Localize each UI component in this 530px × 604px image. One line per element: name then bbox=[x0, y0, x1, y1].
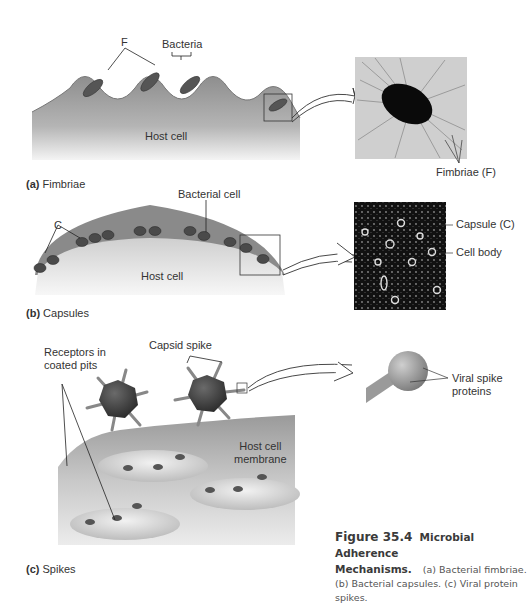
micrograph-fimbriae bbox=[355, 57, 467, 163]
panel-c-caption: (c) Spikes bbox=[26, 563, 76, 575]
label-host-cell-b: Host cell bbox=[141, 270, 183, 283]
label-host-cell-a: Host cell bbox=[145, 130, 187, 143]
caption-line-2: (b) Bacterial capsules. (c) Viral protei… bbox=[335, 577, 530, 604]
panel-a-host-cell bbox=[32, 48, 300, 160]
label-receptors: Receptors incoated pits bbox=[44, 346, 106, 371]
viral-spike-closeup bbox=[366, 351, 448, 403]
figure-title-cont: Mechanisms. bbox=[335, 563, 412, 575]
figure-caption: Figure 35.4 Microbial Adherence Mechanis… bbox=[335, 529, 530, 604]
caption-line-1: (a) Bacterial fimbriae. bbox=[423, 564, 527, 575]
label-host-cell-membrane: Host cellmembrane bbox=[234, 440, 287, 465]
label-cell-body: Cell body bbox=[456, 246, 502, 259]
label-fimbriae-micrograph: Fimbriae (F) bbox=[436, 166, 496, 179]
label-capsid-spike: Capsid spike bbox=[149, 339, 212, 352]
virus-right bbox=[175, 356, 247, 425]
label-fimbriae-f: F bbox=[121, 36, 128, 49]
micrograph-capsules bbox=[354, 202, 453, 310]
label-bacterial-cell: Bacterial cell bbox=[178, 188, 240, 201]
label-capsule-c: C bbox=[54, 219, 62, 232]
panel-b-caption: (b) Capsules bbox=[26, 307, 89, 319]
label-capsule: Capsule (C) bbox=[456, 218, 515, 231]
virus-left bbox=[87, 370, 147, 430]
label-bacteria: Bacteria bbox=[162, 38, 202, 51]
figure-number: Figure 35.4 bbox=[335, 530, 412, 544]
panel-a-caption: (a) Fimbriae bbox=[26, 178, 85, 190]
label-viral-spike-proteins: Viral spikeproteins bbox=[452, 372, 503, 397]
